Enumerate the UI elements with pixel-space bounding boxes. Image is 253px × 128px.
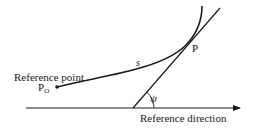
reference-direction-label: Reference direction xyxy=(140,112,227,124)
angle-psi-label: ψ xyxy=(150,92,157,104)
reference-point-dot xyxy=(55,85,59,89)
tangent-line xyxy=(133,8,220,108)
reference-point-label: Reference point xyxy=(14,71,84,83)
p0-subscript: O xyxy=(44,87,49,95)
curve-tangent-diagram: P s Reference point PO ψ Reference direc… xyxy=(0,0,253,128)
arc-length-label: s xyxy=(136,57,140,68)
point-p-label: P xyxy=(192,42,198,54)
p0-label: PO xyxy=(38,81,49,95)
